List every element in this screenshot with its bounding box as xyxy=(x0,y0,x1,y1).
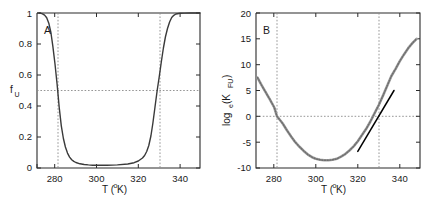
panel-b-xlabel-tail: K) xyxy=(336,184,346,195)
panel-a-ytick-06: 0.6 xyxy=(19,69,32,80)
panel-a-xtick-300: 300 xyxy=(89,173,105,184)
panel-a-ytick-02: 0.2 xyxy=(19,131,32,142)
panel-b-ylabel-open: (K xyxy=(221,94,232,104)
panel-b-ytick-20: 20 xyxy=(240,8,251,19)
panel-b-ticks xyxy=(256,13,420,168)
panel-a-ytick-08: 0.8 xyxy=(19,38,32,49)
panel-a-xtick-340: 340 xyxy=(172,173,188,184)
panel-b-xtick-320: 320 xyxy=(350,173,366,184)
panel-a-xtick-320: 320 xyxy=(130,173,146,184)
panel-b-letter: B xyxy=(263,24,270,36)
panel-b-ytick-m10: -10 xyxy=(237,162,251,173)
panel-a-letter: A xyxy=(44,24,51,36)
panel-b-svg: -10 -5 0 5 10 15 20 280 300 320 340 T ( … xyxy=(216,0,433,213)
panel-a-yaxis-title: f U xyxy=(10,84,20,98)
panel-a-ytick-0: 0 xyxy=(27,162,32,173)
panel-a-guides xyxy=(37,13,200,168)
panel-b-ylabel-close: ) xyxy=(221,75,232,78)
panel-b-xaxis-title: T ( o K) xyxy=(321,182,346,195)
panel-b-xtick-280: 280 xyxy=(266,173,282,184)
figure-container: 0 0.2 0.4 0.6 0.8 1 280 300 320 340 T ( … xyxy=(0,0,433,213)
panel-a-ytick-1: 1 xyxy=(27,8,32,19)
panel-b-tangent-line xyxy=(358,91,394,152)
panel-b-ylabel-k-sub: FU xyxy=(227,79,234,88)
panel-b-xtick-300: 300 xyxy=(308,173,324,184)
panel-a-ylabel-sub: U xyxy=(15,91,20,98)
panel-b-xtick-340: 340 xyxy=(392,173,408,184)
panel-a-ylabel-main: f xyxy=(10,84,13,95)
panel-b-guides xyxy=(256,13,420,168)
panel-b-ytick-15: 15 xyxy=(240,33,251,44)
panel-a-ytick-04: 0.4 xyxy=(19,100,32,111)
panel-a: 0 0.2 0.4 0.6 0.8 1 280 300 320 340 T ( … xyxy=(0,0,216,213)
panel-b: -10 -5 0 5 10 15 20 280 300 320 340 T ( … xyxy=(216,0,433,213)
panel-a-xaxis-title: T ( o K) xyxy=(102,182,127,195)
panel-b-ytick-0: 0 xyxy=(246,111,251,122)
panel-b-ytick-5: 5 xyxy=(246,85,251,96)
panel-b-curve xyxy=(258,39,417,161)
panel-b-ytick-10: 10 xyxy=(240,59,251,70)
panel-b-ytick-m5: -5 xyxy=(243,137,251,148)
panel-a-svg: 0 0.2 0.4 0.6 0.8 1 280 300 320 340 T ( … xyxy=(0,0,216,213)
panel-b-ylabel-log: log xyxy=(221,113,232,126)
panel-b-curve-markers xyxy=(258,39,417,161)
panel-a-xlabel-tail: K) xyxy=(117,184,127,195)
panel-b-yaxis-title: log e (K FU ) xyxy=(221,75,234,126)
panel-a-curve xyxy=(39,13,200,165)
panel-a-xtick-280: 280 xyxy=(47,173,63,184)
panel-b-axes xyxy=(256,13,420,168)
